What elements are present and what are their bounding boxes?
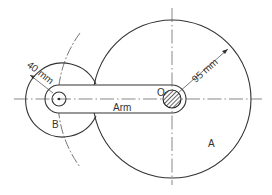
dimension-95-label: 95 mm [190,56,220,84]
arm-label: Arm [113,102,131,113]
gear-b-label: B [52,119,59,130]
epicyclic-gear-diagram: 95 mm 40 mm Arm O A B [0,0,272,195]
pin-b-center [58,98,61,101]
gear-a-label: A [208,138,215,149]
pivot-o-label: O [157,87,165,98]
